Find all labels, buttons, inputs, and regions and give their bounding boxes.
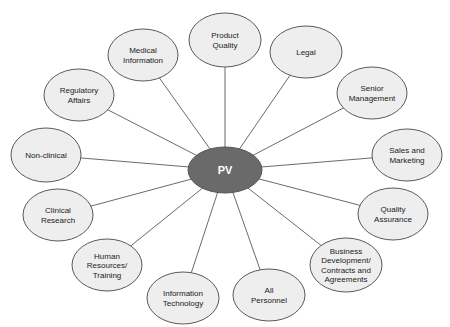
node-label: Non-clinical	[25, 151, 67, 160]
node-label: Human	[94, 252, 120, 261]
node-label: All	[265, 286, 274, 295]
node-label: Sales and	[389, 146, 425, 155]
node-label: Information	[163, 289, 203, 298]
node-label: Regulatory	[60, 86, 99, 95]
node-information-technology: InformationTechnology	[147, 272, 219, 324]
node-label: Resources/	[87, 261, 128, 270]
pv-stakeholder-diagram: ProductQualityLegalSeniorManagementSales…	[0, 0, 450, 327]
node-label: Personnel	[251, 296, 287, 305]
node-label: Marketing	[389, 156, 424, 165]
node-business-development: BusinessDevelopment/Contracts andAgreeme…	[310, 238, 382, 292]
node-label: Medical	[129, 46, 157, 55]
node-label: Quality	[381, 205, 406, 214]
node-label: Contracts and	[321, 266, 371, 275]
node-legal: Legal	[270, 26, 342, 78]
node-non-clinical: Non-clinical	[11, 128, 81, 182]
node-label: Quality	[213, 41, 238, 50]
node-label: Management	[349, 94, 396, 103]
node-all-personnel: AllPersonnel	[233, 269, 305, 321]
node-label: Agreements	[324, 275, 367, 284]
hub-label: PV	[218, 164, 233, 176]
node-label: Technology	[163, 299, 203, 308]
node-clinical-research: ClinicalResearch	[23, 189, 93, 241]
node-label: Business	[330, 247, 362, 256]
node-label: Research	[41, 216, 75, 225]
node-medical-information: MedicalInformation	[108, 29, 178, 81]
node-label: Legal	[296, 48, 316, 57]
node-label: Clinical	[45, 206, 71, 215]
node-human-resources-training: HumanResources/Training	[72, 239, 142, 291]
node-senior-management: SeniorManagement	[337, 67, 407, 119]
node-quality-assurance: QualityAssurance	[358, 188, 428, 240]
node-sales-and-marketing: Sales andMarketing	[372, 129, 442, 181]
node-label: Assurance	[374, 215, 412, 224]
hub-node-pv: PV	[188, 147, 262, 193]
node-label: Development/	[321, 256, 371, 265]
node-product-quality: ProductQuality	[189, 13, 261, 67]
node-label: Affairs	[68, 96, 91, 105]
node-label: Information	[123, 56, 163, 65]
node-label: Product	[211, 31, 239, 40]
node-regulatory-affairs: RegulatoryAffairs	[44, 69, 114, 121]
node-label: Training	[93, 271, 122, 280]
node-label: Senior	[360, 84, 383, 93]
